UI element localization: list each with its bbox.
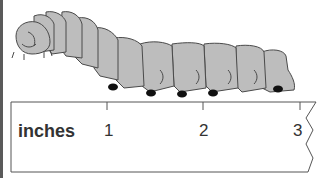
segment-8 — [172, 43, 206, 92]
ruler-unit-label: inches — [18, 121, 75, 142]
proleg — [146, 90, 156, 97]
proleg — [108, 84, 118, 91]
front-leg — [12, 52, 14, 58]
segment-7 — [140, 42, 174, 92]
caterpillar-illustration — [0, 0, 324, 178]
proleg — [273, 86, 283, 93]
caterpillar — [12, 12, 295, 92]
proleg — [208, 90, 218, 97]
proleg — [177, 91, 187, 98]
segment-10 — [236, 45, 266, 92]
tick-label-1: 1 — [104, 121, 113, 141]
tick-label-3: 3 — [293, 121, 302, 141]
segment-9 — [204, 43, 238, 92]
tick-label-2: 2 — [199, 121, 208, 141]
